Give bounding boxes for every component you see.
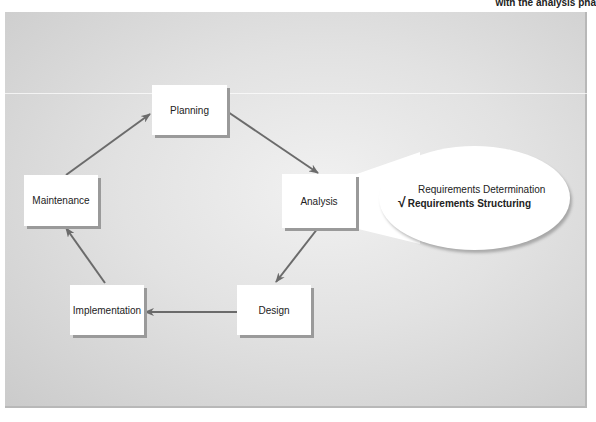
node-planning: Planning (152, 85, 227, 135)
node-design: Design (237, 285, 311, 335)
node-label: Analysis (300, 196, 337, 207)
arrow-analysis-to-design (276, 228, 318, 282)
node-label: Implementation (73, 305, 141, 316)
arrow-planning-to-analysis (228, 112, 318, 173)
node-implementation: Implementation (70, 285, 144, 335)
arrow-maintenance-to-planning (66, 114, 150, 175)
node-label: Design (258, 305, 289, 316)
node-analysis: Analysis (282, 174, 356, 228)
node-maintenance: Maintenance (24, 175, 98, 226)
node-label: Maintenance (32, 195, 89, 206)
node-label: Planning (170, 105, 209, 116)
arrow-implementation-to-maintenance (66, 228, 105, 283)
